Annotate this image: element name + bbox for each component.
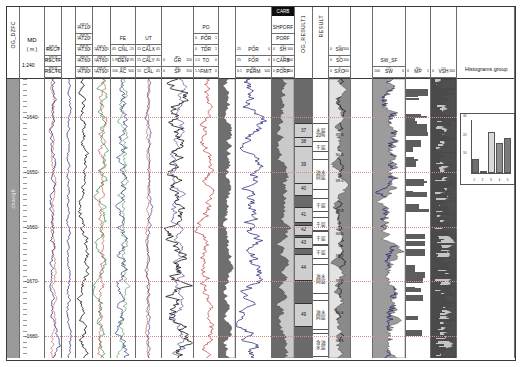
result-label: 水层 20%	[313, 128, 328, 138]
header-row-at20: 1AT20ohm.m1	[76, 34, 92, 45]
curve-name: AT30	[96, 48, 108, 53]
curve-unit: %	[338, 56, 341, 58]
curve-name: SW_SF	[380, 59, 397, 64]
header-row-fe: FE	[111, 34, 135, 45]
range-high: 100	[449, 70, 455, 74]
range-high: 0	[215, 70, 217, 74]
og_result1-label: OG_RESULT1	[300, 15, 306, 53]
track-body	[431, 79, 456, 358]
track-sw[interactable]	[351, 7, 373, 358]
result-row[interactable]: 油水 同层	[313, 300, 328, 330]
track-mp[interactable]: 0MPmD1	[406, 7, 431, 358]
result-row[interactable]: 干层	[313, 245, 328, 259]
curve-name: AT90	[96, 70, 108, 75]
curve-name: SW	[385, 70, 393, 75]
depth-minor-tick	[23, 145, 27, 146]
curve-name: FOR	[248, 59, 258, 64]
track-depth[interactable]: MD( m )1:240-1640--1650--1660--1670--168…	[20, 7, 45, 358]
track-result[interactable]: RESULT水层 20%干层油水 同层干层干层干层干层油水 同层油水 同层含油 …	[313, 7, 329, 358]
track-res1b[interactable]	[62, 7, 76, 358]
range-low: 0	[163, 70, 165, 74]
mp-bar	[406, 98, 419, 100]
range-low: 1	[77, 26, 79, 30]
track-res_num[interactable]: OG_RESULT1373839404142434449	[295, 7, 313, 358]
header-row-so: 0SO%100	[329, 56, 350, 67]
track-header	[219, 7, 235, 79]
result-row[interactable]: 油水 同层	[313, 159, 328, 191]
histogram-xtick: 3	[490, 178, 492, 182]
header-row-cal: 15CALcm45	[136, 67, 161, 78]
track-vsh[interactable]: 0VSH(%)100	[431, 7, 457, 358]
header-row-por: 25POR%0	[236, 45, 271, 56]
curve-name: SH	[280, 48, 287, 53]
range-high: 100	[343, 70, 349, 74]
range-low: 0	[330, 59, 332, 63]
depth-minor-tick	[23, 139, 27, 140]
depth-minor-tick	[23, 128, 27, 129]
range-low: 0.2	[46, 48, 51, 52]
track-cal[interactable]: UT15CALXcm4515CALYcm4515CALcm45	[136, 7, 162, 358]
mp-bar	[406, 330, 422, 336]
curve-unit: ohm.m	[97, 67, 106, 69]
result-label: 干层	[313, 236, 328, 241]
track-sat[interactable]: 0SW%1000SO%1000SXO%10039.630.539.638.830…	[329, 7, 351, 358]
saturation-value: 38.8	[329, 208, 350, 213]
track-atb[interactable]: 1AT30ohm.m11AT60ohm.m11AT90ohm.m1	[93, 7, 111, 358]
result-row[interactable]: 油水 同层	[313, 264, 328, 294]
range-high: 500	[128, 70, 134, 74]
track-res1[interactable]: 0.2RSCTohm.m200.5RSCTFohm.m0.11.5RSCTOoh…	[45, 7, 62, 358]
curve-name: TDR	[201, 48, 211, 53]
range-low: 0	[273, 48, 275, 52]
result-row[interactable]: 干层	[313, 231, 328, 245]
header-row-carb: 0CARB(%)100	[272, 56, 294, 67]
track-swb[interactable]: SW_SF100SW(%)0	[373, 7, 406, 358]
curve-unit: ohm.m	[80, 45, 89, 47]
track-por[interactable]: FE45CNL%-151.95DENg/cm32.95100ACus/m500	[111, 7, 136, 358]
result-row[interactable]: 含油 水层	[313, 333, 328, 357]
range-high: 2.95	[127, 59, 134, 63]
track-body	[373, 79, 405, 358]
result-row[interactable]: 干层	[313, 141, 328, 152]
range-high: 45	[156, 59, 160, 63]
depth-minor-tick	[23, 287, 27, 288]
curve-name: AT60	[78, 59, 90, 64]
track-at[interactable]: 1AT10ohm.m11AT20ohm.m11AT30ohm.m11AT60oh…	[76, 7, 93, 358]
header-row-at10: 1AT10ohm.m1	[76, 23, 92, 34]
track-header: SW_SF100SW(%)0	[373, 7, 405, 79]
track-po[interactable]: PO0POR%10TDR%11.5TO01.5FMIT0	[194, 7, 219, 358]
range-low: 0	[330, 48, 332, 52]
track-header: PO0POR%10TDR%11.5TO01.5FMIT0	[194, 7, 218, 79]
header-row-for: 25FOR%0	[236, 56, 271, 67]
curve-name: GR	[174, 59, 181, 64]
range-high: 45	[156, 70, 160, 74]
curve-unit: ohm.m	[80, 56, 89, 58]
layer-number: 37	[295, 127, 312, 132]
track-body: chang6	[7, 79, 19, 358]
histogram-bar	[488, 132, 495, 173]
mp-bar	[406, 89, 428, 96]
track-body	[62, 79, 75, 358]
log-curve	[169, 79, 187, 358]
range-high: 100	[264, 70, 270, 74]
track-pob[interactable]	[219, 7, 236, 358]
range-high: 1	[89, 26, 91, 30]
track-gr[interactable]: 0GRAPI1500SPmV150	[162, 7, 194, 358]
track-carb[interactable]: CARBSHPORFPORF0SH(%)1000CARB(%)1000PORF(…	[272, 7, 295, 358]
curve-name: MP	[414, 70, 421, 75]
track-zone[interactable]: OG_DZFCchang6	[7, 7, 20, 358]
curve-name: CNL	[118, 48, 128, 53]
curve-name: CAL	[144, 70, 154, 75]
track-perm[interactable]: 25POR%025FOR%00.1PERMmD100	[236, 7, 272, 358]
depth-minor-tick	[23, 205, 27, 206]
histogram-xtick: 2	[482, 178, 484, 182]
result-row[interactable]: 水层 20%	[313, 123, 328, 144]
depth-minor-tick	[23, 150, 27, 151]
result-row[interactable]: 干层	[313, 217, 328, 231]
result-label: 油水 同层	[313, 310, 328, 320]
curve-name: POR	[248, 48, 259, 53]
depth-minor-tick	[23, 123, 27, 124]
range-high: 100	[287, 48, 293, 52]
histogram-panel[interactable]: 10203012345	[460, 113, 515, 185]
result-row[interactable]: 干层	[313, 198, 328, 212]
well-log-display: OG_DZFCchang6MD( m )1:240-1640--1650--16…	[0, 0, 522, 367]
